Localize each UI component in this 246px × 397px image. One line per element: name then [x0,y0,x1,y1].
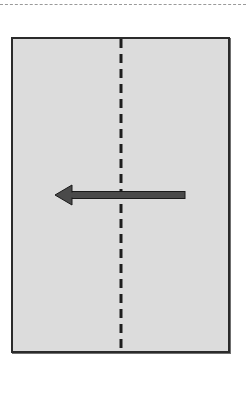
arrow-left-icon [55,185,185,205]
fold-diagram [0,0,246,397]
